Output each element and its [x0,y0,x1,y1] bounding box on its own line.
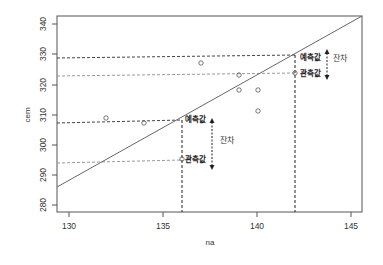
predicted-ref-line-1 [57,120,182,123]
x-tick-label: 145 [344,221,358,231]
predicted-ref-line-2 [57,55,295,58]
y-tick-label: 320 [38,78,48,92]
data-point [256,109,260,113]
y-tick-label: 300 [38,138,48,152]
observed-label-1: 관측값 [185,154,206,164]
predicted-label-2: 예측값 [300,52,321,62]
residual-label-2: 잔차 [333,53,348,63]
observed-label-2: 관측값 [300,68,321,78]
scatter-plot: 130 135 140 145 na 280 290 300 310 320 3… [0,0,383,265]
y-tick-label: 310 [38,108,48,122]
x-axis [69,212,351,217]
data-points [104,61,297,161]
predicted-label-1: 예측값 [185,114,206,124]
x-axis-title: na [206,238,215,247]
y-axis [52,24,57,205]
y-axis-title: cem [23,107,32,122]
residual-arrow-2 [325,49,330,80]
x-tick-label: 130 [62,221,76,231]
residual-arrow-1 [210,118,215,170]
x-tick-label: 135 [156,221,170,231]
data-point [199,61,203,65]
regression-line [57,16,362,187]
plot-frame [57,16,362,212]
y-tick-label: 280 [38,198,48,212]
data-point [256,88,260,92]
observed-ref-line-1 [57,160,182,163]
y-tick-label: 330 [38,47,48,61]
data-point [104,116,108,120]
y-tick-label: 290 [38,168,48,182]
y-tick-label: 340 [38,17,48,31]
x-tick-label: 140 [250,221,264,231]
residual-label-1: 잔차 [220,135,235,145]
data-point [142,121,146,125]
data-point [237,88,241,92]
